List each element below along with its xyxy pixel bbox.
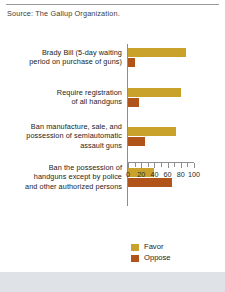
axis-minor-tick — [161, 163, 162, 167]
chart-page: Source: The Gallup Organization. Brady B… — [0, 0, 225, 292]
axis-minor-tick — [174, 163, 175, 167]
category-label-line: assault guns — [80, 141, 122, 150]
footer-band — [0, 272, 225, 292]
bar-favor — [128, 88, 181, 97]
axis-major-tick — [168, 163, 169, 168]
bar-favor — [128, 127, 176, 136]
category-label: Brady Bill (5-day waitingperiod on purch… — [4, 48, 122, 67]
bar-favor — [128, 48, 186, 57]
legend-label: Favor — [144, 242, 163, 251]
axis-major-tick — [194, 163, 195, 168]
favor-swatch — [131, 244, 139, 251]
category-label-line: Brady Bill (5-day waiting — [42, 48, 122, 57]
legend-label: Oppose — [144, 253, 171, 262]
oppose-swatch — [131, 255, 139, 262]
axis-minor-tick — [135, 163, 136, 167]
source-note: Source: The Gallup Organization. — [7, 9, 120, 18]
category-label: Require registrationof all handguns — [4, 88, 122, 107]
axis-tick-label: 20 — [137, 170, 145, 179]
bar-oppose — [128, 58, 135, 67]
axis-major-tick — [154, 163, 155, 168]
axis-tick-label: 0 — [126, 170, 130, 179]
category-label-line: possession of semiautomatic — [26, 131, 122, 140]
axis-tick-label: 100 — [188, 170, 200, 179]
axis-minor-tick — [148, 163, 149, 167]
category-label-line: Require registration — [57, 88, 122, 97]
category-label-line: of all handguns — [71, 97, 122, 106]
axis-major-tick — [128, 163, 129, 168]
axis-major-tick — [141, 163, 142, 168]
category-label: Ban manufacture, sale, andpossession of … — [4, 122, 122, 150]
axis-minor-tick — [187, 163, 188, 167]
category-label-line: Ban manufacture, sale, and — [31, 122, 122, 131]
value-axis: 020406080100 — [0, 162, 225, 195]
bar-oppose — [128, 98, 139, 107]
axis-tick-label: 60 — [164, 170, 172, 179]
axis-major-tick — [181, 163, 182, 168]
bar-chart: Brady Bill (5-day waitingperiod on purch… — [0, 44, 225, 239]
header-divider — [6, 4, 219, 5]
axis-tick-label: 80 — [177, 170, 185, 179]
category-label-line: period on purchase of guns) — [29, 57, 122, 66]
bar-oppose — [128, 137, 145, 146]
axis-tick-label: 40 — [150, 170, 158, 179]
